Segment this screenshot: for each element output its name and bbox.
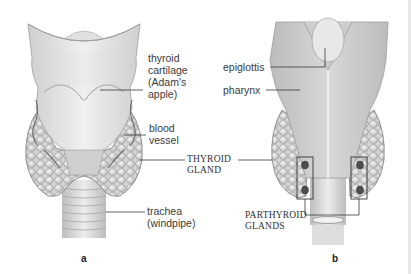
anatomy-illustration bbox=[0, 0, 411, 274]
label-blood-vessel: blood vessel bbox=[149, 122, 179, 146]
label-trachea: trachea (windpipe) bbox=[147, 205, 195, 229]
label-parathyroid-glands: PARTHYROID GLANDS bbox=[245, 210, 307, 232]
thyroid-anatomy-figure: thyroid cartilage (Adam's apple) blood v… bbox=[0, 0, 411, 274]
panel-label-b: b bbox=[332, 253, 338, 264]
label-pharynx: pharynx bbox=[223, 84, 260, 96]
epiglottis bbox=[312, 18, 344, 62]
panel-label-a: a bbox=[81, 253, 87, 264]
label-thyroid-gland: THYROID GLAND bbox=[187, 154, 231, 176]
trachea-b bbox=[310, 175, 346, 245]
trachea-a bbox=[62, 180, 106, 238]
label-thyroid-cartilage: thyroid cartilage (Adam's apple) bbox=[148, 52, 188, 100]
label-epiglottis: epiglottis bbox=[223, 61, 264, 73]
